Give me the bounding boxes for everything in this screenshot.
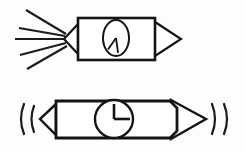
top-nose-cone-icon xyxy=(152,20,181,58)
spark-line-4 xyxy=(20,43,66,55)
drawing-canvas: Rocket shape with sparks trailing from i… xyxy=(0,0,246,153)
exhaust-spark-lines xyxy=(15,10,67,69)
bottom-rear-nozzle-icon xyxy=(40,104,56,135)
bottom-clock-face xyxy=(95,100,133,138)
right-motion-arc-2 xyxy=(224,104,227,134)
left-motion-arcs xyxy=(21,104,34,134)
left-motion-arc-2 xyxy=(32,106,35,132)
spark-line-5 xyxy=(27,46,67,69)
top-clock-face xyxy=(103,20,129,56)
line-drawing-svg xyxy=(0,0,246,153)
right-motion-arc-1 xyxy=(212,104,215,134)
top-rocket-figure xyxy=(15,10,181,69)
right-motion-arcs xyxy=(212,104,227,134)
left-motion-arc-1 xyxy=(21,104,24,134)
top-rear-nozzle-icon xyxy=(64,24,78,54)
bottom-rocket-figure xyxy=(21,100,227,139)
